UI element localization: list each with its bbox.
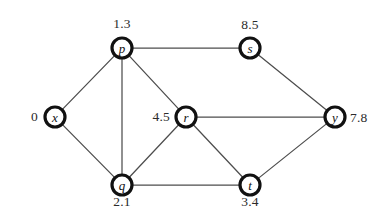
graph-node-r[interactable]: r	[176, 107, 196, 127]
node-letter-x: x	[51, 110, 58, 125]
node-letter-t: t	[248, 178, 252, 193]
node-distance-label-t: 3.4	[241, 195, 258, 209]
graph-node-q[interactable]: q	[112, 175, 132, 195]
node-distance-label-q: 2.1	[113, 195, 130, 209]
graph-svg: psxryqt	[0, 0, 387, 221]
node-distance-label-y: 7.8	[350, 111, 367, 125]
graph-edge-t-y	[259, 124, 327, 178]
node-letter-y: y	[330, 110, 338, 125]
graph-node-t[interactable]: t	[240, 175, 260, 195]
node-distance-label-x: 0	[31, 110, 38, 124]
node-letter-p: p	[118, 41, 126, 56]
graph-edge-s-y	[259, 55, 327, 110]
graph-edge-p-r	[129, 56, 178, 109]
graph-edge-x-q	[63, 125, 115, 177]
node-letter-s: s	[247, 41, 252, 56]
node-letter-q: q	[119, 178, 126, 193]
graph-node-x[interactable]: x	[45, 107, 65, 127]
graph-node-s[interactable]: s	[240, 38, 260, 58]
node-distance-label-p: 1.3	[113, 17, 130, 31]
graph-edge-r-t	[194, 125, 243, 177]
node-distance-label-r: 4.5	[153, 110, 170, 124]
node-distance-label-s: 8.5	[241, 18, 258, 32]
graph-diagram: psxryqt 1.38.504.57.82.13.4	[0, 0, 387, 221]
graph-node-p[interactable]: p	[112, 38, 132, 58]
graph-node-y[interactable]: y	[325, 107, 345, 127]
graph-edge-r-q	[130, 125, 179, 177]
graph-edge-x-p	[63, 56, 115, 109]
